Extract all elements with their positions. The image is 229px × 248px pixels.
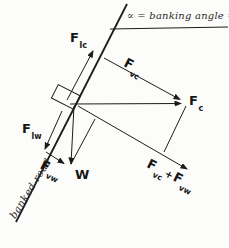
label-flc: Flc [70, 31, 86, 47]
label-flc-subscript: lc [79, 41, 86, 50]
vector-fc-arrow [70, 104, 181, 105]
label-fc: Fc [189, 94, 203, 110]
label-flc-symbol: F [70, 30, 79, 45]
label-flw: Flw [22, 122, 41, 138]
label-flw-subscript: lw [31, 132, 41, 141]
label-fc-symbol: F [189, 93, 198, 108]
banking-angle-note: ∝ = banking angle = 64° [127, 10, 229, 21]
label-w: W [75, 168, 89, 181]
construction-line-to-w-tip [71, 119, 95, 164]
vector-flw-arrow [45, 111, 62, 149]
vehicle-box [51, 85, 80, 110]
force-diagram-banked-road: ∝ = banking angle = 64° banked road Flc … [0, 0, 229, 248]
vector-flc-arrow [67, 51, 93, 100]
label-fc-subscript: c [198, 104, 203, 113]
label-w-symbol: W [75, 167, 89, 182]
label-flw-symbol: F [22, 121, 31, 136]
construction-line-from-fc-tip [164, 106, 186, 152]
angle-baseline [110, 27, 228, 29]
